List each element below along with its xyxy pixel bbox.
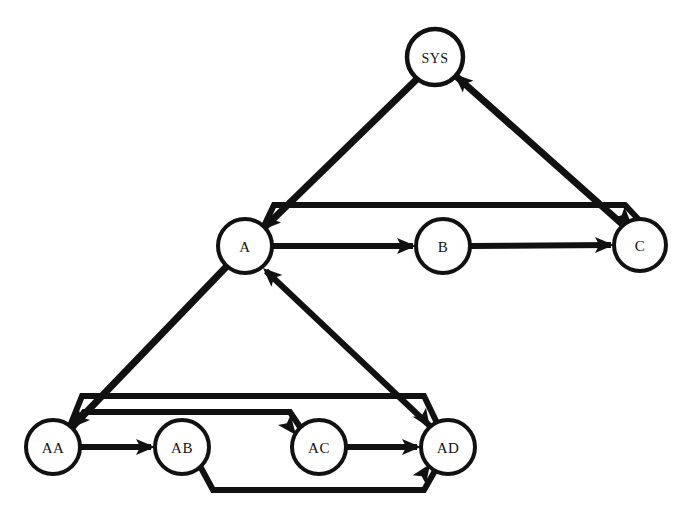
node-label-aa: AA <box>42 440 65 456</box>
edge-line-b-c <box>470 245 611 246</box>
node-ad[interactable]: AD <box>421 420 475 474</box>
node-label-ab: AB <box>171 440 193 456</box>
node-label-b: B <box>438 239 449 255</box>
node-b[interactable]: B <box>416 219 470 273</box>
diagram-root: SYSABCAAABACAD <box>0 0 688 522</box>
node-label-c: C <box>635 238 646 254</box>
node-aa[interactable]: AA <box>26 420 80 474</box>
node-label-a: A <box>239 239 250 255</box>
node-c[interactable]: C <box>614 219 666 271</box>
node-ac[interactable]: AC <box>292 420 346 474</box>
node-label-ad: AD <box>437 440 460 456</box>
node-a[interactable]: A <box>218 219 272 273</box>
node-sys[interactable]: SYS <box>407 29 463 85</box>
node-ab[interactable]: AB <box>155 420 209 474</box>
node-graph-canvas: SYSABCAAABACAD <box>0 0 688 522</box>
node-label-ac: AC <box>308 440 330 456</box>
node-label-sys: SYS <box>421 51 448 66</box>
